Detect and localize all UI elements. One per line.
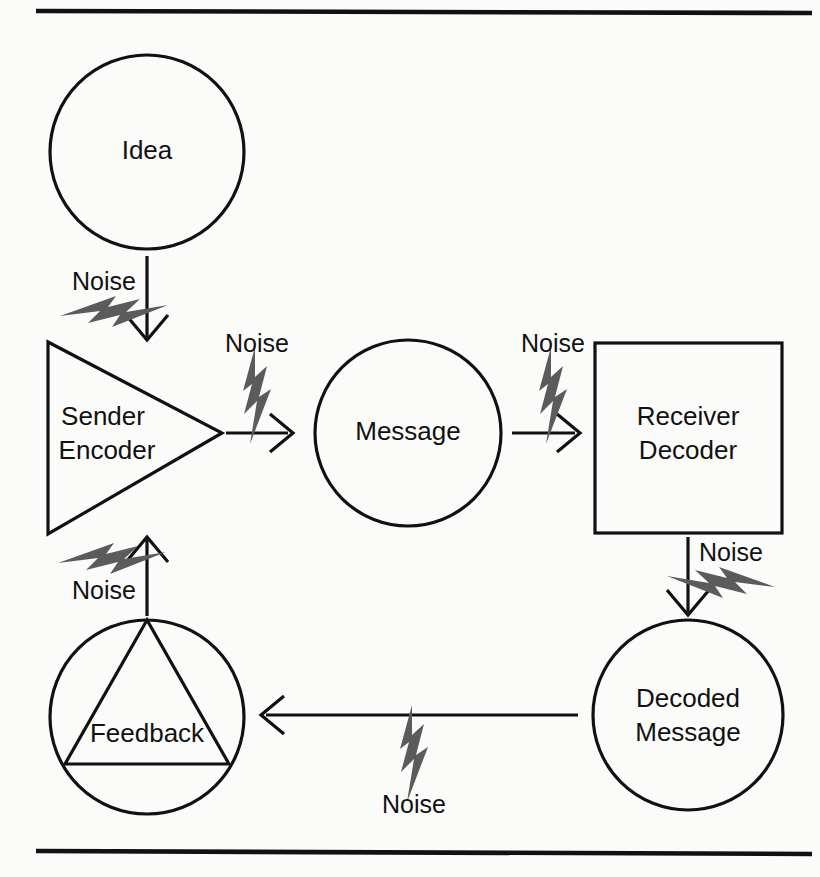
diagram-canvas: Idea Noise Sender Encoder Noise Message … <box>0 0 820 877</box>
communication-model-diagram: Idea Noise Sender Encoder Noise Message … <box>0 0 820 877</box>
connector-message-to-receiver: Noise <box>512 329 585 452</box>
connector-sender-to-message: Noise <box>225 329 293 452</box>
noise-label-1: Noise <box>72 267 136 295</box>
bottom-rule <box>36 851 812 854</box>
noise-bolt-icon-3 <box>539 347 567 444</box>
noise-bolt-icon-4 <box>667 567 775 598</box>
connector-receiver-to-decoded: Noise <box>667 537 775 615</box>
node-receiver-label-line2: Decoder <box>639 435 738 465</box>
connector-idea-to-sender: Noise <box>60 256 168 340</box>
noise-label-5: Noise <box>382 790 446 818</box>
noise-label-2: Noise <box>225 329 289 357</box>
connector-decoded-to-feedback: Noise <box>261 696 578 818</box>
node-decoded-message <box>593 620 783 810</box>
node-decoded-label-line2: Message <box>635 717 741 747</box>
noise-label-3: Noise <box>521 329 585 357</box>
node-decoded-label-line1: Decoded <box>636 683 740 713</box>
noise-label-4: Noise <box>699 538 763 566</box>
noise-bolt-icon-2 <box>243 347 271 444</box>
node-sender-label-line1: Sender <box>61 401 145 431</box>
node-feedback-label: Feedback <box>90 718 205 748</box>
noise-label-6: Noise <box>72 576 136 604</box>
connector-feedback-to-sender: Noise <box>58 537 168 616</box>
noise-bolt-icon-6 <box>58 543 166 574</box>
top-rule <box>36 11 812 13</box>
node-receiver-label-line1: Receiver <box>637 401 740 431</box>
node-idea-label: Idea <box>122 135 173 165</box>
noise-bolt-icon-1 <box>60 296 168 327</box>
noise-bolt-icon-5 <box>400 705 428 802</box>
node-message-label: Message <box>355 416 461 446</box>
node-sender-label-line2: Encoder <box>59 435 156 465</box>
